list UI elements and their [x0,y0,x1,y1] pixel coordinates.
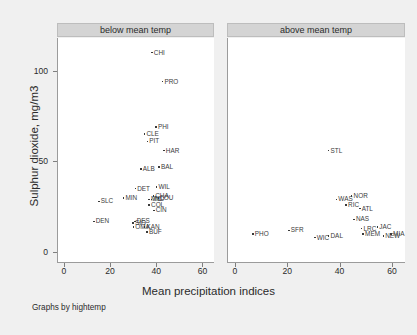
y-axis-tick-mark [53,71,57,72]
scatter-point: BAL [158,164,173,171]
scatter-point-label: PHO [255,230,269,237]
scatter-point: NOR [351,193,368,200]
scatter-point-marker [383,235,385,237]
panel-header-label: below mean temp [100,25,171,35]
scatter-point-marker [362,233,364,235]
scatter-point-marker [151,52,153,54]
scatter-point: HAR [163,148,179,155]
x-axis-tick-mark [340,263,341,267]
scatter-point-marker [153,210,155,212]
x-axis-tick-mark [110,263,111,267]
scatter-point-label: BUF [149,228,162,235]
scatter-point: NAS [353,216,369,223]
panel-header-below-mean-temp: below mean temp [57,23,214,37]
scatter-point: WIL [156,184,170,191]
scatter-point-label: PIT [149,138,159,145]
scatter-point-label: NEW [385,232,400,239]
y-axis-tick-label: 50 [14,156,48,166]
x-axis-tick-label: 60 [380,266,404,276]
scatter-point: PIT [147,138,160,145]
scatter-point-label: NAS [356,216,369,223]
chart-figure: below mean temp above mean temp Sulphur … [0,0,417,335]
scatter-point-marker [148,204,150,206]
scatter-point-marker [147,141,149,143]
y-axis-tick-mark [53,252,57,253]
x-axis-tick-mark [287,263,288,267]
scatter-point: SLC [98,198,113,205]
scatter-point: CIN [153,207,167,214]
panel-header-above-mean-temp: above mean temp [227,23,405,37]
scatter-point-label: WIL [158,183,169,190]
scatter-point: ATL [359,206,373,213]
scatter-point-label: CIN [156,206,167,213]
scatter-point: STL [328,148,342,155]
scatter-point: MEM [362,231,380,238]
scatter-point: ALB [140,166,155,173]
scatter-point-marker [155,126,157,128]
scatter-point-label: SFR [291,226,304,233]
scatter-point: WIC [314,235,329,242]
x-axis-tick-mark [202,263,203,267]
scatter-point-label: DEN [96,217,110,224]
scatter-point-label: HAR [166,147,180,154]
chart-caption: Graphs by hightemp [32,303,106,312]
scatter-point-marker [163,150,165,152]
scatter-point: BUF [146,229,161,236]
scatter-point-label: DAL [331,232,343,239]
scatter-point-marker [328,235,330,237]
x-axis-tick-mark [156,263,157,267]
y-axis-tick-mark [53,161,57,162]
scatter-point-marker [345,204,347,206]
scatter-point-marker [288,230,290,232]
scatter-point: SFR [288,227,303,234]
scatter-point-label: SLC [101,197,113,204]
scatter-point: PRO [162,79,179,86]
scatter-point-marker [328,150,330,152]
y-axis-tick-label: 100 [14,66,48,76]
scatter-point-label: ALB [143,165,155,172]
scatter-point: MIN [123,195,137,202]
scatter-point-label: ATL [362,205,373,212]
scatter-point-marker [351,195,353,197]
scatter-point: PHO [252,231,269,238]
scatter-point-marker [135,188,137,190]
scatter-point-marker [158,166,160,168]
scatter-point: DAL [328,233,343,240]
x-axis-tick-mark [392,263,393,267]
scatter-point-marker [146,231,148,233]
x-axis-tick-label: 20 [275,266,299,276]
scatter-point-label: BAL [161,163,173,170]
scatter-point-marker [140,168,142,170]
scatter-point-label: CHI [154,49,165,56]
scatter-point: NEW [383,233,401,240]
scatter-point-label: CLE [146,130,158,137]
scatter-point-marker [252,233,254,235]
scatter-point: RIC [345,202,359,209]
scatter-point-marker [98,201,100,203]
scatter-point-marker [377,226,379,228]
scatter-point-marker [133,226,135,228]
x-axis-tick-label: 40 [144,266,168,276]
x-axis-tick-label: 20 [98,266,122,276]
x-axis-tick-mark [64,263,65,267]
scatter-point-label: PHI [158,123,169,130]
scatter-point-label: MIN [125,194,137,201]
y-axis-tick-label: 0 [14,247,48,257]
scatter-point: CHI [151,50,165,57]
scatter-point-marker [148,199,150,201]
scatter-point-label: STL [331,147,343,154]
x-axis-title: Mean precipitation indices [0,285,417,297]
scatter-point-label: NOR [354,192,368,199]
scatter-point-label: DET [137,185,150,192]
x-axis-tick-label: 40 [328,266,352,276]
scatter-point-marker [359,208,361,210]
scatter-point: DEN [93,218,109,225]
scatter-point-marker [314,237,316,239]
scatter-point: DET [135,186,150,193]
x-axis-tick-label: 60 [190,266,214,276]
scatter-point-label: MEM [365,230,380,237]
x-axis-tick-label: 0 [52,266,76,276]
x-axis-tick-label: 0 [223,266,247,276]
scatter-point-marker [353,219,355,221]
panel-header-label: above mean temp [280,25,352,35]
